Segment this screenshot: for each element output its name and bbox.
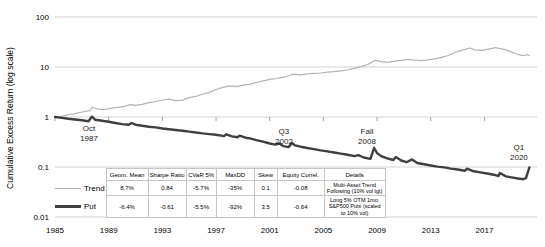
stats-header: Equity Correl. xyxy=(277,169,324,181)
annotation-text: 2002 xyxy=(275,137,293,146)
legend-label: Trend xyxy=(84,184,105,193)
stats-table: Geom. MeanSharpe RatioCVaR 5%MaxDDSkewEq… xyxy=(54,168,386,218)
stat-value: 0.84 xyxy=(148,181,186,196)
y-tick-label: 1 xyxy=(45,113,50,122)
stats-header: CVaR 5% xyxy=(186,169,216,181)
annotation-text: 2008 xyxy=(358,137,376,146)
stat-value: -5.5% xyxy=(186,196,216,218)
stat-value: 3.5 xyxy=(254,196,277,218)
x-tick-label: 2001 xyxy=(261,226,279,235)
stat-value: -5.7% xyxy=(186,181,216,196)
x-tick-label: 2005 xyxy=(315,226,333,235)
annotation-text: Oct xyxy=(83,124,96,133)
x-tick-label: 1997 xyxy=(207,226,225,235)
details-cell: Long 5% OTM 1mo. S&P500 Puts (scaled to … xyxy=(324,196,385,218)
annotation-text: 1987 xyxy=(80,134,98,143)
x-tick-label: 1989 xyxy=(100,226,118,235)
stat-value: -0.08 xyxy=(277,181,324,196)
stats-header: Geom. Mean xyxy=(106,169,148,181)
trend-line-swatch-icon xyxy=(55,188,81,189)
annotation-text: Fall xyxy=(361,127,374,136)
stats-header: MaxDD xyxy=(216,169,254,181)
stats-header: Skew xyxy=(254,169,277,181)
cumulative-excess-return-chart: Cumulative Excess Return (log scale) 100… xyxy=(0,0,545,247)
x-tick-label: 1993 xyxy=(153,226,171,235)
x-tick-label: 1985 xyxy=(46,226,64,235)
stat-value: -6.4% xyxy=(106,196,148,218)
legend-item-trend: Trend xyxy=(54,181,106,196)
x-tick-label: 2009 xyxy=(368,226,386,235)
x-tick-label: 2013 xyxy=(422,226,440,235)
annotation-text: 2020 xyxy=(510,153,528,162)
annotation-text: Q1 xyxy=(514,143,525,152)
legend-stats-table: Geom. MeanSharpe RatioCVaR 5%MaxDDSkewEq… xyxy=(54,168,386,218)
legend-label: Put xyxy=(84,202,96,211)
trend-line xyxy=(55,48,529,118)
legend-corner-cell xyxy=(54,169,106,181)
x-tick-label: 2017 xyxy=(476,226,494,235)
details-cell: Multi-Asset Trend Following (10% vol tgt… xyxy=(324,181,385,196)
annotation-text: Q3 xyxy=(279,127,290,136)
y-tick-label: 100 xyxy=(36,13,50,22)
stat-value: 0.1 xyxy=(254,181,277,196)
stats-header: Sharpe Ratio xyxy=(148,169,186,181)
y-tick-label: 10 xyxy=(40,63,49,72)
stat-value: 8.7% xyxy=(106,181,148,196)
put-line-swatch-icon xyxy=(55,205,81,208)
stat-value: -0.64 xyxy=(277,196,324,218)
y-tick-label: 0.01 xyxy=(33,213,49,222)
legend-item-put: Put xyxy=(54,196,106,218)
stat-value: -0.61 xyxy=(148,196,186,218)
stat-value: -35% xyxy=(216,181,254,196)
stat-value: -92% xyxy=(216,196,254,218)
y-tick-label: 0.1 xyxy=(38,163,50,172)
stats-header: Details xyxy=(324,169,385,181)
